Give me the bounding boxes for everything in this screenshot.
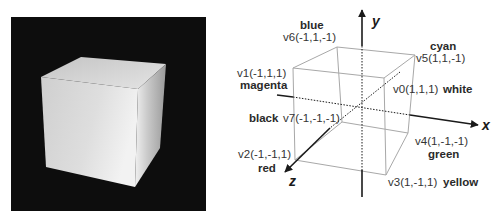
edge-v7-v4 [342,122,408,133]
x-axis-arrow [410,115,478,125]
z-axis-arrow [285,128,330,172]
v2-label: v2(-1,-1,1) [238,148,291,160]
edge-v0-v3 [384,78,386,175]
v0-label: v0(1,1,1) [393,83,439,95]
v0-color-label: white [442,83,472,95]
edge-v6-v7 [337,47,342,122]
x-axis-left [277,95,293,97]
edge-v1-v6 [293,47,337,68]
v6-label: v6(-1,1,-1) [283,31,336,43]
v2-color-label: red [258,162,276,174]
y-axis-label: y [371,13,381,29]
v4-color-label: green [428,148,459,160]
x-axis-label: x [481,117,491,133]
v5-color-label: cyan [430,40,456,52]
v1-color-label: magenta [240,79,288,91]
cube-coordinate-diagram: y x z blue v6(-1,1,-1) cyan v5(1,1,-1) v… [0,0,497,218]
v4-label: v4(1,-1,-1) [415,135,468,147]
z-axis-label: z [288,173,296,189]
v5-label: v5(1,1,-1) [416,52,465,64]
v3-color-label: yellow [443,176,478,188]
edge-v0-v5 [384,55,415,78]
edge-v6-v5 [337,47,415,55]
v7-label: v7(-1,-1,-1) [283,112,340,124]
v7-color-label: black [249,112,279,124]
edge-v2-v3 [295,160,386,175]
v3-label: v3(1,-1,1) [388,176,437,188]
edge-v3-v4 [386,133,408,175]
cube-edges [293,47,415,175]
v1-label: v1(-1,1,1) [237,67,286,79]
v6-color-label: blue [300,19,324,31]
